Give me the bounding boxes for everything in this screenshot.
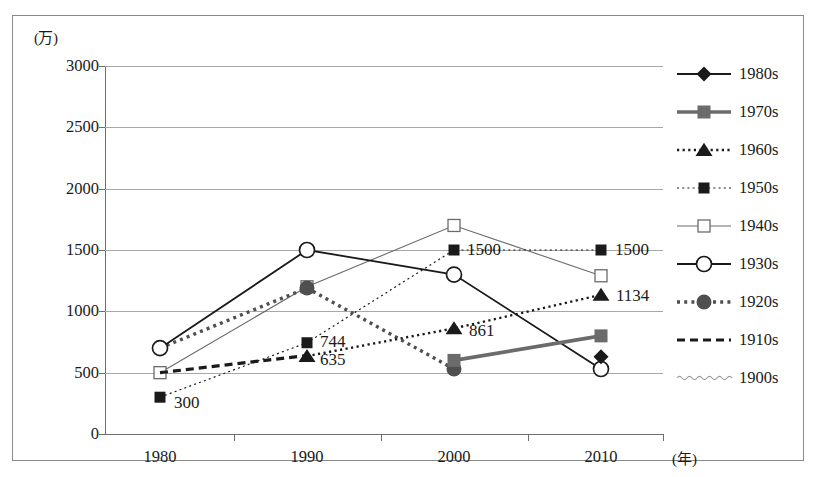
data-point-marker <box>153 341 168 356</box>
legend-item-1980s[interactable]: 1980s <box>676 55 806 93</box>
legend-swatch-1970s <box>676 101 732 123</box>
data-point-marker <box>449 245 460 256</box>
data-label: 861 <box>469 321 495 341</box>
chart-legend: 1980s1970s1960s1950s1940s1930s1920s1910s… <box>676 55 806 397</box>
legend-item-1900s[interactable]: 1900s <box>676 359 806 397</box>
y-tick-label: 0 <box>91 424 99 444</box>
legend-item-1920s[interactable]: 1920s <box>676 283 806 321</box>
legend-label: 1900s <box>739 368 778 388</box>
data-point-marker <box>697 257 712 272</box>
data-point-marker <box>446 321 463 334</box>
legend-swatch-1930s <box>676 253 732 275</box>
data-point-marker <box>593 288 610 301</box>
legend-swatch-1900s <box>676 367 732 389</box>
legend-swatch-1920s <box>676 291 732 313</box>
series-line <box>160 225 601 372</box>
series-1920s <box>153 281 462 377</box>
x-tick-mark <box>528 434 529 441</box>
legend-label: 1970s <box>739 102 778 122</box>
y-axis-unit-label: (万) <box>34 26 58 47</box>
legend-label: 1920s <box>739 292 778 312</box>
y-tick-label: 3000 <box>66 56 99 76</box>
data-label: 1134 <box>616 286 649 306</box>
y-tick-label: 500 <box>74 363 99 383</box>
legend-item-1930s[interactable]: 1930s <box>676 245 806 283</box>
legend-swatch-1910s <box>676 329 732 351</box>
data-point-marker <box>155 392 166 403</box>
x-tick-label: 1990 <box>291 447 324 467</box>
data-point-marker <box>447 267 462 282</box>
legend-item-1970s[interactable]: 1970s <box>676 93 806 131</box>
plot-area: 1980199020002010 30074463515008611500113… <box>105 66 663 434</box>
data-label: 744 <box>320 332 346 352</box>
legend-item-1940s[interactable]: 1940s <box>676 207 806 245</box>
y-tick-label: 2000 <box>66 179 99 199</box>
data-point-marker <box>300 243 315 258</box>
data-point-marker <box>594 349 609 364</box>
data-point-marker <box>595 270 607 282</box>
series-layer <box>105 66 663 434</box>
data-point-marker <box>697 67 712 82</box>
data-point-marker <box>696 143 713 156</box>
legend-swatch-1960s <box>676 139 732 161</box>
legend-item-1910s[interactable]: 1910s <box>676 321 806 359</box>
legend-label: 1960s <box>739 140 778 160</box>
x-tick-label: 1980 <box>144 447 177 467</box>
y-tick-label: 1000 <box>66 301 99 321</box>
x-axis-unit-label: (年) <box>672 447 697 468</box>
legend-swatch-1950s <box>676 177 732 199</box>
data-point-marker <box>698 220 710 232</box>
data-label: 1500 <box>615 240 649 260</box>
data-label: 635 <box>320 350 346 370</box>
legend-label: 1910s <box>739 330 778 350</box>
x-tick-mark <box>234 434 235 441</box>
data-label: 1500 <box>467 240 501 260</box>
legend-label: 1930s <box>739 254 778 274</box>
legend-item-1960s[interactable]: 1960s <box>676 131 806 169</box>
data-point-marker <box>595 329 608 342</box>
legend-swatch-1940s <box>676 215 732 237</box>
x-tick-mark <box>381 434 382 441</box>
data-point-marker <box>699 183 710 194</box>
legend-label: 1940s <box>739 216 778 236</box>
series-1930s <box>153 243 609 377</box>
legend-swatch-1980s <box>676 63 732 85</box>
x-tick-label: 2000 <box>438 447 471 467</box>
data-point-marker <box>698 106 711 119</box>
data-point-marker <box>302 337 313 348</box>
data-point-marker <box>596 245 607 256</box>
x-tick-label: 2010 <box>585 447 618 467</box>
y-tick-label: 1500 <box>66 240 99 260</box>
data-point-marker <box>448 219 460 231</box>
legend-label: 1950s <box>739 178 778 198</box>
x-tick-mark <box>663 434 664 441</box>
x-axis-line <box>105 434 663 435</box>
data-point-marker <box>300 281 315 296</box>
data-label: 300 <box>174 393 200 413</box>
y-axis-tick-labels: 050010001500200025003000 <box>0 66 99 434</box>
legend-item-1950s[interactable]: 1950s <box>676 169 806 207</box>
y-tick-label: 2500 <box>66 117 99 137</box>
series-line <box>160 250 601 397</box>
legend-label: 1980s <box>739 64 778 84</box>
data-point-marker <box>448 354 461 367</box>
series-1980s <box>594 349 609 364</box>
chart-figure: (万) 050010001500200025003000 19801990200… <box>0 0 816 477</box>
data-point-marker <box>697 295 712 310</box>
series-1940s <box>154 219 607 378</box>
series-line <box>160 250 601 369</box>
